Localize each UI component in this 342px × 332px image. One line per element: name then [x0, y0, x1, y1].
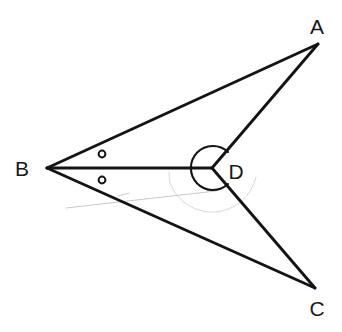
figure-canvas	[0, 0, 342, 332]
segment-DC	[212, 168, 315, 288]
vertex-label-a: A	[310, 16, 324, 37]
segment-BA	[47, 44, 318, 168]
vertex-label-d: D	[228, 161, 243, 182]
segment-AD	[212, 44, 318, 168]
erased-pencil-arc-tail	[169, 172, 170, 183]
vertex-label-b: B	[15, 158, 29, 179]
erased-pencil-line	[66, 191, 216, 208]
geometry-figure: A B C D	[0, 0, 342, 332]
angle-tick-abd	[99, 151, 106, 158]
vertex-label-c: C	[309, 298, 324, 319]
angle-tick-dbc	[99, 177, 106, 184]
erased-pencil-tick	[118, 193, 129, 196]
segment-BC	[47, 168, 315, 288]
figure-segments	[47, 44, 318, 288]
